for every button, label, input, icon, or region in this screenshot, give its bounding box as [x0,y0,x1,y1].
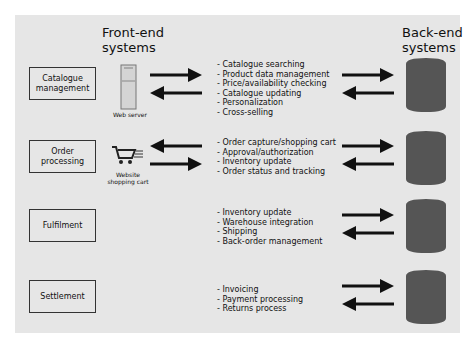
arrow-right-icon [342,68,394,82]
function-item: - Back-order management [217,237,322,247]
function-item: - Invoicing [217,285,303,295]
function-list-order: - Order capture/shopping cart - Approval… [217,138,336,176]
process-box-settlement: Settlement [29,280,96,313]
process-box-catalogue-management: Catalogue management [29,67,96,100]
process-label: Settlement [40,292,84,302]
arrow-right-icon [150,157,202,171]
cart-caption: Website shopping cart [102,171,154,185]
function-item: - Approval/authorization [217,148,336,158]
function-item: - Warehouse integration [217,218,322,228]
process-label: Fulfilment [43,221,83,231]
function-item: - Catalogue updating [217,89,330,99]
function-item: - Order status and tracking [217,167,336,177]
cart-caption-line2: shopping cart [102,178,154,185]
database-icon [405,130,447,186]
function-item: - Catalogue searching [217,60,330,70]
function-item: - Shipping [217,227,322,237]
database-icon [405,269,447,325]
function-item: - Order capture/shopping cart [217,138,336,148]
function-item: - Cross-selling [217,108,330,118]
function-item: - Personalization [217,98,330,108]
arrow-left-icon [342,157,394,171]
process-label: Catalogue [36,74,90,84]
back-end-header: Back-end systems [402,25,463,55]
process-label: Order [41,147,84,157]
arrow-left-icon [150,139,202,153]
cart-caption-line1: Website [102,171,154,178]
arrow-right-icon [150,68,202,82]
function-item: - Returns process [217,304,303,314]
function-item: - Price/availability checking [217,79,330,89]
function-item: - Payment processing [217,295,303,305]
back-end-header-line1: Back-end [402,25,463,40]
process-label: management [36,84,90,94]
arrow-left-icon [342,297,394,311]
function-item: - Inventory update [217,208,322,218]
database-icon [405,57,447,113]
process-box-order-processing: Order processing [29,140,96,173]
arrow-left-icon [150,86,202,100]
front-end-header-line2: systems [102,40,164,55]
function-list-fulfilment: - Inventory update - Warehouse integrati… [217,208,322,246]
function-list-settlement: - Invoicing - Payment processing - Retur… [217,285,303,314]
function-list-catalogue: - Catalogue searching - Product data man… [217,60,330,117]
back-end-header-line2: systems [402,40,463,55]
process-label: processing [41,157,84,167]
arrow-left-icon [342,226,394,240]
arrow-right-icon [342,208,394,222]
database-icon [405,198,447,254]
arrow-right-icon [342,139,394,153]
process-box-fulfilment: Fulfilment [29,209,96,242]
function-item: - Product data management [217,70,330,80]
function-item: - Inventory update [217,157,336,167]
shopping-cart-icon [110,144,144,166]
front-end-header-line1: Front-end [102,25,164,40]
arrow-right-icon [342,279,394,293]
web-server-caption: Web server [108,111,152,118]
front-end-header: Front-end systems [102,25,164,55]
web-server-icon [120,64,138,110]
arrow-left-icon [342,86,394,100]
